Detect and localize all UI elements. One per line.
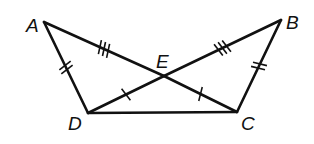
geometry-diagram: A B C D E <box>0 0 314 144</box>
label-a: A <box>25 15 39 36</box>
label-c: C <box>241 113 255 134</box>
label-b: B <box>286 12 299 33</box>
segment-dc <box>88 112 237 113</box>
label-e: E <box>156 51 169 72</box>
segment-bc <box>237 20 281 112</box>
tick-mark-de <box>122 89 131 100</box>
label-d: D <box>68 113 82 134</box>
segment-ad <box>44 22 88 113</box>
diagram-svg: A B C D E <box>0 0 314 144</box>
